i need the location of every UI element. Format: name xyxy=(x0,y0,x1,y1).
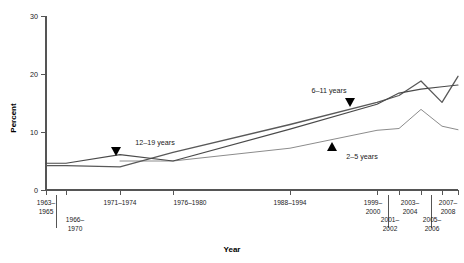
trend-line-chart: 0 10 20 30 Percent 1963– xyxy=(0,0,464,263)
annotation-label-6-11-years: 6–11 years xyxy=(311,86,346,95)
x-tick-label-1999-2000-line2: 2000 xyxy=(366,208,381,215)
x-tick-label-2007-2008-line1: 2007– xyxy=(439,199,458,206)
chart-figure: 0 10 20 30 Percent 1963– xyxy=(0,0,464,263)
x-tick-label-2003-2004-line2: 2004 xyxy=(403,208,418,215)
x-tick-label-2005-2006-line1: 2005– xyxy=(423,216,442,223)
x-tick-label-1963-1965-line2: 1965 xyxy=(39,208,54,215)
x-tick-label-2001-2002-line2: 2002 xyxy=(383,225,398,232)
annotation-label-12-19-years: 12–19 years xyxy=(135,138,175,147)
x-tick-label-1966-1970-line2: 1970 xyxy=(68,225,83,232)
x-tick-labels-top: 1963– 1965 1971–1974 1976–1980 1988–1994… xyxy=(37,199,458,215)
y-tick-label-0: 0 xyxy=(34,186,38,195)
annotation-6-11-years: 6–11 years xyxy=(311,86,355,107)
y-tick-label-30: 30 xyxy=(30,12,38,21)
x-tick-label-1999-2000-line1: 1999– xyxy=(364,199,383,206)
annotation-12-19-years: 12–19 years xyxy=(111,138,175,156)
x-tick-label-2007-2008-line2: 2008 xyxy=(441,208,456,215)
triangle-up-icon xyxy=(327,142,337,151)
x-axis-ticks xyxy=(46,190,458,195)
x-tick-label-2005-2006-line2: 2006 xyxy=(425,225,440,232)
annotation-2-5-years: 2–5 years xyxy=(327,142,378,161)
x-tick-labels-bottom: 1966– 1970 2001– 2002 2005– 2006 xyxy=(66,216,442,232)
y-tick-label-20: 20 xyxy=(30,70,38,79)
x-tick-label-1966-1970-line1: 1966– xyxy=(66,216,85,223)
x-tick-label-1963-1965-line1: 1963– xyxy=(37,199,56,206)
x-tick-label-1971-1974: 1971–1974 xyxy=(103,199,136,206)
triangle-down-icon xyxy=(345,98,355,107)
y-axis-ticks: 0 10 20 30 xyxy=(30,12,46,195)
x-tick-label-1988-1994: 1988–1994 xyxy=(273,199,306,206)
y-tick-label-10: 10 xyxy=(30,128,38,137)
series-line-6-11-years xyxy=(46,76,458,167)
annotation-label-2-5-years: 2–5 years xyxy=(346,152,378,161)
x-tick-label-1976-1980: 1976–1980 xyxy=(173,199,206,206)
x-axis-title: Year xyxy=(224,245,241,254)
x-tick-label-2001-2002-line1: 2001– xyxy=(381,216,400,223)
y-axis-title: Percent xyxy=(9,103,18,133)
x-tick-label-2003-2004-line1: 2003– xyxy=(401,199,420,206)
